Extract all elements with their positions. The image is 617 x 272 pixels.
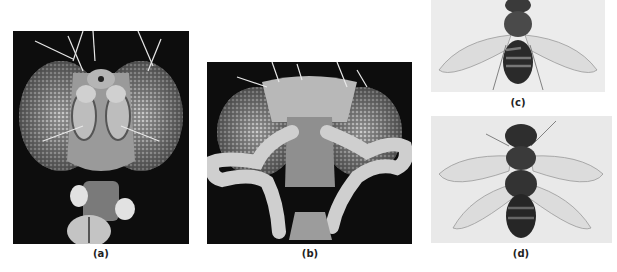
fly-bithorax-dorsal-image bbox=[431, 116, 612, 243]
panel-d-label: (d) bbox=[501, 248, 541, 259]
panel-b-label: (b) bbox=[290, 248, 330, 259]
fly-head-legs-sem-image bbox=[207, 62, 412, 244]
panel-d-fly-two-wing-pairs bbox=[431, 116, 612, 243]
panel-b-sem-head-antennapedia bbox=[207, 62, 412, 244]
panel-a-label: (a) bbox=[81, 248, 121, 259]
panel-c-fly-one-wing-pair bbox=[431, 0, 605, 92]
panel-c-label: (c) bbox=[498, 97, 538, 108]
fly-dorsal-image bbox=[431, 0, 605, 92]
fly-head-sem-image bbox=[13, 31, 189, 244]
panel-a-sem-head-normal bbox=[13, 31, 189, 244]
